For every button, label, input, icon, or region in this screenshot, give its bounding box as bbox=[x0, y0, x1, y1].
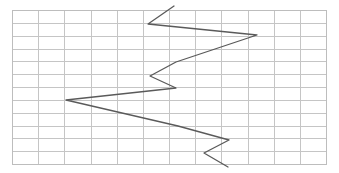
chart-canvas bbox=[0, 0, 339, 173]
plot-svg bbox=[0, 0, 339, 173]
